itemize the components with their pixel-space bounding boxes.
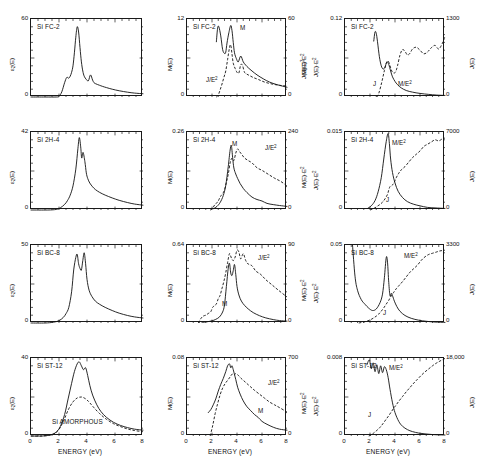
ytick-min-r2c3: 0 [339,203,342,210]
xtick-6-c3: 6 [415,437,423,444]
yaxis-title-c2-right2-r1: J(E)·E2 [312,58,319,77]
plot-canvas-r3c3 [345,245,445,323]
curve-annotation-M-r1c2: M [240,24,245,31]
xtick-6-c2: 6 [257,437,265,444]
curve-annotation-ME2-r1c3: M/E2 [398,80,412,87]
xtick-8-c3: 8 [440,437,448,444]
curve-m-r4c2 [208,364,287,430]
ytick-min-r2c2: 0 [181,203,184,210]
x-axis-title-c3: ENERGY (eV) [366,448,410,455]
curve-annotation-JE2-r3c2: J/E2 [258,254,270,261]
ytick-right-max-r4c2: 700 [288,353,298,360]
panel-sample-label-r2c1: Si 2H-4 [37,136,59,143]
ytick-right-max-r3c2: 90 [288,240,295,247]
ytick-max-r1c1: 60 [21,14,28,21]
curve-annotation-J-r1c3: J [373,80,376,87]
panel-sample-label-r1c3: Si FC-2 [351,23,374,30]
curve-m-r2c2 [214,145,287,208]
curve-si-amorphous-r4c1 [31,397,143,436]
ytick-right-max-r1c3: 1300 [446,14,459,21]
yaxis-title-c3-right-r2: J(E) [468,171,475,182]
curve-m-e--r2c3 [368,134,446,209]
xtick-2-c2: 2 [207,437,215,444]
curve-j-r1c3 [377,36,445,97]
xtick-8-c1: 8 [138,437,146,444]
curve-annotation-M-r3c2: M [222,300,227,307]
plot-canvas-r1c3 [345,19,445,97]
curve-j-r3c3 [359,250,445,323]
yaxis-title-c1-r2: ε2(E) [8,171,16,184]
xtick-4-c3: 4 [390,437,398,444]
ytick-min-r3c1: 0 [25,316,28,323]
yaxis-title-c3-right-r1: J(E) [468,58,475,69]
x-axis-title-c2: ENERGY (eV) [208,448,252,455]
ytick-min-r4c1: 0 [25,429,28,436]
yaxis-title-c3-left2-r1: J(E)·E3 [300,60,307,79]
curve-eps2-r2c1 [31,138,143,210]
panel-sample-label-r2c2: Si 2H-4 [193,136,215,143]
ytick-right-min-r4c3: 0 [446,429,449,436]
curve-annotation-JE2-r2c2: J/E2 [265,144,277,151]
xtick-0-c3: 0 [340,437,348,444]
curve-m-e--r3c3 [353,245,446,322]
plot-canvas-r2c1 [31,132,143,210]
ytick-min-r1c2: 0 [181,90,184,97]
plot-canvas-r3c2 [187,245,287,323]
ytick-max-r3c3: 0.05 [330,240,342,247]
xtick-2-c1: 2 [54,437,62,444]
yaxis-title-c1-r4: ε2(E) [8,397,16,410]
panel-sample-label-r4c2: Si ST-12 [193,362,219,369]
ytick-max-r4c3: 0.008 [327,353,342,360]
ytick-max-r1c2: 12 [177,14,184,21]
curve-eps2-r1c1 [31,27,143,97]
ytick-min-r1c1: 0 [25,90,28,97]
plot-canvas-r3c1 [31,245,143,323]
yaxis-title-c2-right2-r3: J(E)·E2 [312,284,319,303]
ytick-min-r2c1: 0 [25,203,28,210]
yaxis-title-c2-left-r2: M(E) [166,171,173,184]
xtick-6-c1: 6 [110,437,118,444]
curve-j-e--r2c2 [210,149,287,210]
ytick-right-min-r4c2: 0 [288,429,291,436]
yaxis-title-c2-right-r3: M(E)·E2 [300,280,307,301]
ytick-right-min-r1c3: 0 [446,90,449,97]
panel-sample2-label-r4c1: Si AMORPHOUS [52,418,103,425]
yaxis-title-c2-left-r3: M(E) [166,284,173,297]
ytick-max-r2c2: 0.26 [172,127,184,134]
curve-annotation-J-r3c3: J [383,309,386,316]
curve-annotation-JE2-r4c2: J/E2 [268,379,280,386]
curve-m-r3c2 [202,263,287,322]
ytick-max-r3c2: 0.64 [172,240,184,247]
yaxis-title-c3-right-r3: J(E) [468,284,475,295]
yaxis-title-c3-right-r4: J(E) [468,397,475,408]
yaxis-title-c2-right-r4: M(E)·E2 [300,393,307,414]
ytick-right-min-r1c2: 0 [288,90,291,97]
panel-sample-label-r3c2: Si BC-8 [193,249,216,256]
curve-j-e--r3c2 [198,250,287,323]
yaxis-title-c2-left-r4: M(E) [166,397,173,410]
panel-sample-label-r1c2: Si FC-2 [193,23,216,30]
yaxis-title-c2-right2-r2: J(E)·E2 [312,171,319,190]
curve-annotation-J-r2c3: J [386,196,389,203]
curve-annotation-ME2-r4c3: M/E2 [389,364,403,371]
yaxis-title-c1-r1: ε2(E) [8,58,16,71]
curve-j-r2c3 [370,138,445,210]
plot-canvas-r1c2 [187,19,287,97]
yaxis-title-c1-r3: ε2(E) [8,284,16,297]
panel-sample-label-r3c1: Si BC-8 [37,249,60,256]
ytick-min-r3c3: 0 [339,316,342,323]
xtick-2-c3: 2 [365,437,373,444]
curve-annotation-M-r2c2: M [232,140,237,147]
ytick-min-r4c2: 0 [181,429,184,436]
xtick-4-c1: 4 [82,437,90,444]
xtick-0-c1: 0 [26,437,34,444]
panel-sample-label-r2c3: Si 2H-4 [351,136,373,143]
curve-eps2-r3c1 [31,253,143,323]
xtick-8-c2: 8 [282,437,290,444]
yaxis-title-c2-left-r1: M(E) [166,58,173,71]
panel-sample-label-r3c3: Si BC-8 [351,249,374,256]
ytick-right-max-r2c2: 240 [288,127,298,134]
curve-j-r4c3 [369,358,445,436]
ytick-max-r1c3: 0.12 [330,14,342,21]
ytick-right-max-r3c3: 3300 [446,240,459,247]
